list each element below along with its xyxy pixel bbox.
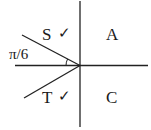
check-icon-t: ✓ <box>58 89 71 104</box>
check-icon-s: ✓ <box>58 26 71 41</box>
angle-label: π/6 <box>9 47 28 62</box>
angle-arc <box>66 59 68 66</box>
axes-diagram <box>0 0 151 130</box>
quadrant-label-a: A <box>106 26 118 43</box>
quadrant-label-c: C <box>106 89 117 106</box>
quadrant-label-t: T <box>42 89 52 106</box>
quadrant-label-s: S <box>42 26 51 43</box>
